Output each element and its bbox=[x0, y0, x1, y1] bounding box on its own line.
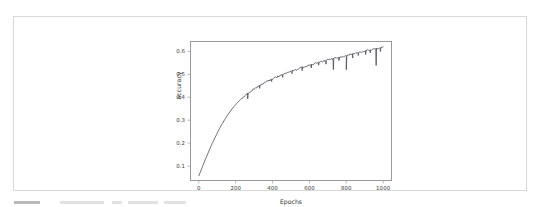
x-tick-label: 1000 bbox=[371, 185, 395, 191]
accuracy-line-chart: 0.10.20.30.40.50.6 02004006008001000 Epo… bbox=[162, 22, 402, 192]
y-axis-label: accuracy bbox=[175, 56, 182, 116]
tick-marks bbox=[188, 51, 384, 183]
x-tick-label: 400 bbox=[261, 185, 285, 191]
footer-fragment bbox=[128, 201, 158, 204]
accuracy-series-line bbox=[199, 47, 383, 176]
y-tick-label: 0.3 bbox=[165, 117, 185, 123]
cut-off-footer-strip bbox=[0, 197, 541, 207]
footer-fragment bbox=[14, 201, 40, 204]
screenshot-root: 0.10.20.30.40.50.6 02004006008001000 Epo… bbox=[0, 0, 541, 207]
x-tick-label: 800 bbox=[334, 185, 358, 191]
figure-card: 0.10.20.30.40.50.6 02004006008001000 Epo… bbox=[13, 16, 527, 191]
x-tick-label: 600 bbox=[297, 185, 321, 191]
footer-fragment bbox=[112, 201, 122, 204]
footer-fragment bbox=[60, 201, 104, 204]
plot-canvas bbox=[162, 22, 402, 192]
y-tick-label: 0.2 bbox=[165, 140, 185, 146]
y-tick-label: 0.1 bbox=[165, 163, 185, 169]
footer-fragment bbox=[164, 201, 186, 204]
x-tick-label: 200 bbox=[224, 185, 248, 191]
x-tick-label: 0 bbox=[187, 185, 211, 191]
y-tick-label: 0.6 bbox=[165, 48, 185, 54]
